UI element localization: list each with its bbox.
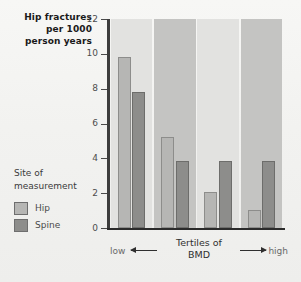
y-axis-title-line-2: per 1000 xyxy=(8,23,92,35)
y-tick-4 xyxy=(101,158,107,159)
plot-area xyxy=(110,19,283,228)
x-axis-caption: low Tertiles of BMD high xyxy=(110,237,288,271)
x-axis-line xyxy=(107,228,285,230)
y-axis-line xyxy=(107,19,110,229)
x-axis-title: Tertiles of BMD xyxy=(176,237,222,261)
bar-hip-group-3 xyxy=(204,192,217,228)
y-tick-label-2: 2 xyxy=(72,189,98,198)
y-axis-title-line-3: person years xyxy=(8,35,92,47)
bar-spine-group-1 xyxy=(132,92,145,228)
bar-hip-group-4 xyxy=(248,210,261,228)
y-tick-label-10: 10 xyxy=(72,49,98,58)
bar-hip-group-1 xyxy=(118,57,131,228)
arrow-left-icon xyxy=(131,250,157,251)
x-axis-title-line-2: BMD xyxy=(176,249,222,261)
y-tick-8 xyxy=(101,89,107,90)
arrow-right-icon xyxy=(240,250,266,251)
x-axis-high-label: high xyxy=(268,246,288,256)
legend-swatch-hip xyxy=(14,202,28,215)
legend-item-hip: Hip xyxy=(14,200,100,217)
y-tick-label-12: 12 xyxy=(72,15,98,24)
bar-spine-group-4 xyxy=(262,161,275,228)
bar-spine-group-2 xyxy=(176,161,189,228)
legend-label-hip: Hip xyxy=(35,202,50,215)
legend-title-line-1: Site of xyxy=(14,167,100,180)
x-axis-low-label: low xyxy=(110,246,125,256)
y-tick-10 xyxy=(101,54,107,55)
y-tick-12 xyxy=(101,19,107,20)
y-tick-label-8: 8 xyxy=(72,84,98,93)
y-tick-label-0: 0 xyxy=(72,224,98,233)
y-tick-0 xyxy=(101,228,107,229)
legend-label-spine: Spine xyxy=(35,219,60,232)
chart-figure: Hip fractures per 1000 person years Site… xyxy=(0,0,301,282)
y-tick-2 xyxy=(101,193,107,194)
x-axis-title-line-1: Tertiles of xyxy=(176,237,222,249)
bar-spine-group-3 xyxy=(219,161,232,228)
y-tick-label-4: 4 xyxy=(72,154,98,163)
y-tick-label-6: 6 xyxy=(72,119,98,128)
y-tick-6 xyxy=(101,124,107,125)
legend-swatch-spine xyxy=(14,219,28,232)
bar-hip-group-2 xyxy=(161,137,174,228)
